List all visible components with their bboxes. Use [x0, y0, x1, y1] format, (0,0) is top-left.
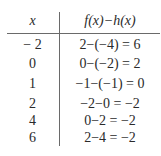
cell-value: −1−(−1) = 0 [62, 76, 158, 92]
difference-table: x f(x)−h(x) − 2 2−(−4) = 6 0 0−(−2) = 2 … [0, 0, 161, 156]
cell-value: 2−(−4) = 6 [62, 37, 158, 53]
cell-value: 0−(−2) = 2 [62, 56, 158, 72]
cell-x: − 2 [10, 37, 55, 53]
cell-value: 2−4 = −2 [62, 130, 158, 146]
header-difference: f(x)−h(x) [62, 13, 158, 29]
cell-value: −2−0 = −2 [62, 96, 158, 112]
cell-x: 4 [10, 113, 55, 129]
header-divider [7, 33, 160, 34]
cell-x: 2 [10, 96, 55, 112]
cell-x: 0 [10, 56, 55, 72]
cell-x: 6 [10, 130, 55, 146]
cell-value: 0−2 = −2 [62, 113, 158, 129]
cell-x: 1 [10, 76, 55, 92]
header-x: x [10, 13, 55, 29]
